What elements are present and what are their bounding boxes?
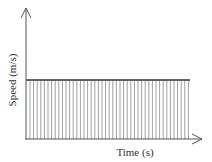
x-axis-label: Time (s) (116, 146, 154, 159)
y-axis-label: Speed (m/s) (6, 53, 19, 106)
speed-time-chart: Time (s) Speed (m/s) (0, 0, 212, 162)
area-hatching (30, 80, 188, 139)
